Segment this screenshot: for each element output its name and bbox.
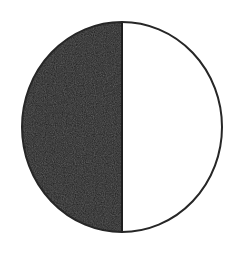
half-shaded-circle-figure — [0, 0, 244, 259]
figure-canvas: A circle with a thin dark outline, divid… — [0, 0, 244, 259]
